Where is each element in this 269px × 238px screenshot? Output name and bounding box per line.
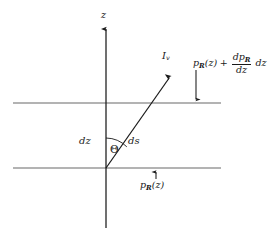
top-pressure-argument: (z) — [205, 57, 217, 68]
fraction-numerator: dpR — [232, 52, 252, 64]
fraction-numerator-base: dp — [233, 51, 245, 62]
intensity-ray-label: Iv — [162, 51, 170, 62]
bottom-pressure-label: pR(z) — [140, 180, 164, 191]
figure-canvas — [0, 0, 269, 238]
z-axis-label: z — [101, 10, 106, 20]
fraction-numerator-subscript: R — [245, 55, 251, 63]
ds-path-length-label: ds — [128, 136, 140, 146]
theta-angle-label: Θ — [110, 144, 119, 155]
intensity-subscript: v — [166, 54, 170, 62]
pressure-gradient-fraction: dpRdz — [232, 52, 252, 76]
fraction-denominator: dz — [232, 65, 252, 75]
radiative-transfer-figure: z dz ds Θ Iv pR(z) pR(z)+dpRdzdz — [0, 0, 269, 238]
top-pressure-label: pR(z)+dpRdzdz — [193, 52, 267, 76]
top-pressure-trailing-dz: dz — [253, 57, 267, 68]
top-pressure-operator: + — [217, 57, 230, 68]
bottom-pressure-argument: (z) — [152, 179, 164, 190]
dz-thickness-label: dz — [79, 136, 91, 146]
